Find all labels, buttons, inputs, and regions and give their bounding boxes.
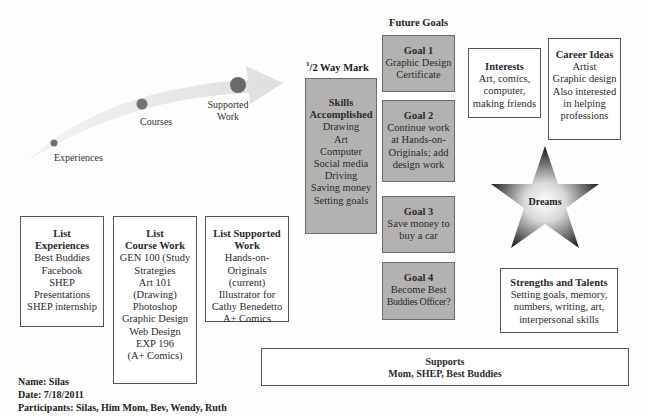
meta-name: Name: Silas — [18, 376, 69, 389]
experiences-dot — [51, 140, 58, 147]
strengths-talents-box: Strengths and Talents Setting goals, mem… — [500, 268, 618, 333]
halfway-mark-heading: 1/2 Way Mark — [306, 60, 369, 73]
goal-3-box: Goal 3 Save money to buy a car — [382, 196, 455, 253]
list-supported-work-box: List Supported Work Hands-on- Originals … — [205, 216, 289, 322]
supports-box: Supports Mom, SHEP, Best Buddies — [261, 348, 629, 386]
list-experiences-box: List Experiences Best Buddies Facebook S… — [20, 216, 104, 327]
meta-participants: Participants: Silas, Him Mom, Bev, Wendy… — [18, 402, 227, 415]
goal-2-box: Goal 2 Continue work at Hands-on- Origin… — [382, 100, 455, 182]
future-goals-heading: Future Goals — [389, 17, 448, 28]
stage-label-supported-work: Supported Work — [202, 99, 254, 123]
skills-accomplished-box: Skills Accomplished Drawing Art Computer… — [305, 78, 377, 234]
goal-1-box: Goal 1 Graphic Design Certificate — [382, 35, 455, 92]
career-ideas-box: Career Ideas Artist Graphic design Also … — [548, 38, 621, 140]
list-course-work-box: List Course Work GEN 100 (Study Strategi… — [113, 216, 197, 384]
goal-4-box: Goal 4 Become Best Buddies Officer? — [382, 262, 455, 320]
stage-label-experiences: Experiences — [54, 152, 103, 164]
progress-arrow — [0, 0, 300, 200]
meta-date: Date: 7/18/2011 — [18, 389, 84, 402]
dreams-label: Dreams — [517, 196, 573, 207]
stage-label-courses: Courses — [140, 116, 172, 128]
courses-dot — [137, 99, 148, 110]
interests-box: Interests Art, comics, computer, making … — [468, 48, 541, 118]
supported-work-dot — [230, 77, 246, 93]
